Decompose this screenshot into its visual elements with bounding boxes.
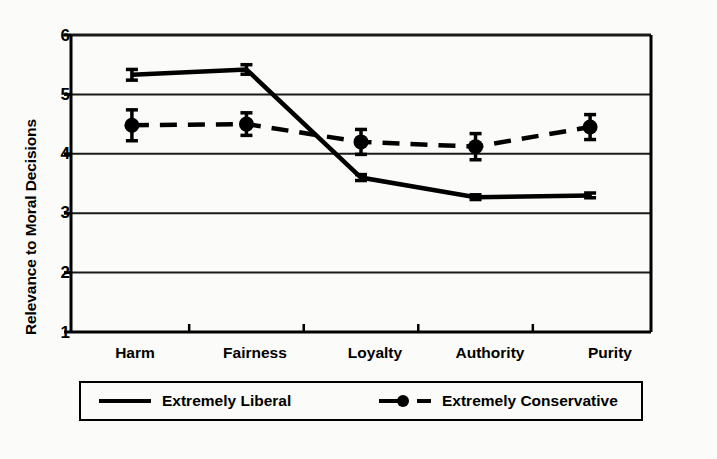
dashed-line-circle-swatch: [377, 393, 433, 409]
chart-figure: Relevance to Moral Decisions 6 5 4 3 2 1…: [0, 0, 717, 459]
chart-legend: Extremely Liberal Extremely Conservative: [79, 381, 643, 421]
legend-item-conservative: Extremely Conservative: [377, 383, 618, 419]
series-extremely-conservative: [124, 110, 597, 160]
legend-item-liberal: Extremely Liberal: [97, 383, 291, 419]
legend-label-liberal: Extremely Liberal: [162, 392, 291, 410]
solid-line-swatch: [97, 393, 153, 409]
axes-frame: [71, 35, 651, 332]
legend-label-conservative: Extremely Conservative: [442, 392, 618, 410]
